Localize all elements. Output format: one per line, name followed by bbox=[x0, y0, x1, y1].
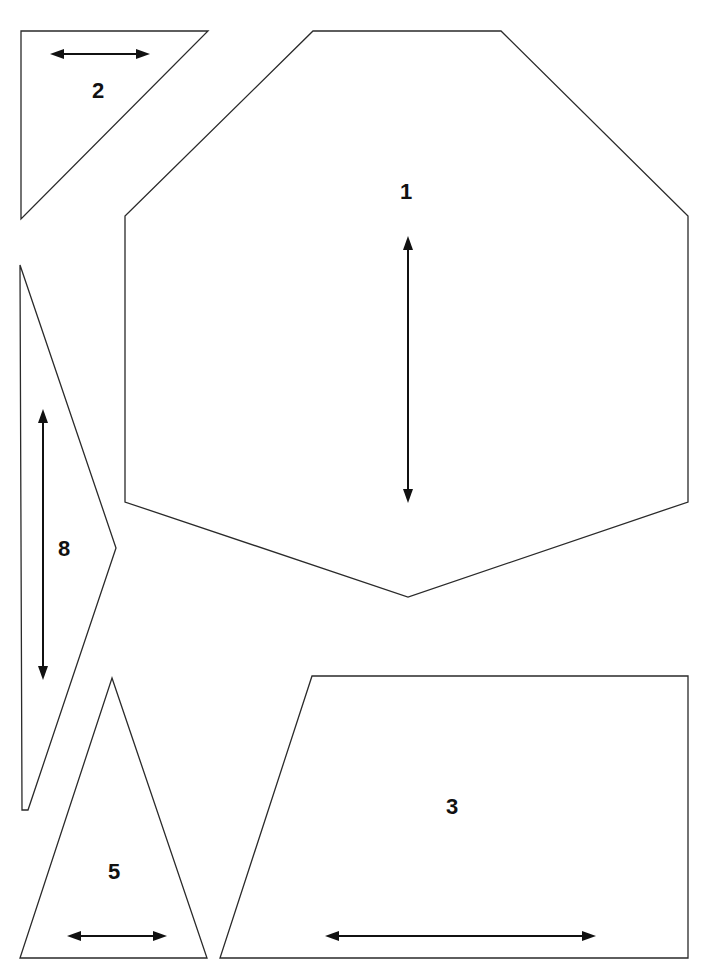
pattern-piece-1[interactable] bbox=[125, 31, 688, 597]
pattern-sheet bbox=[0, 0, 717, 976]
piece-1-outline[interactable] bbox=[125, 31, 688, 597]
piece-3-label: 3 bbox=[446, 796, 458, 818]
piece-2-label: 2 bbox=[92, 80, 104, 102]
piece-8-label: 8 bbox=[58, 538, 70, 560]
piece-5-label: 5 bbox=[108, 861, 120, 883]
piece-1-label: 1 bbox=[400, 181, 412, 203]
